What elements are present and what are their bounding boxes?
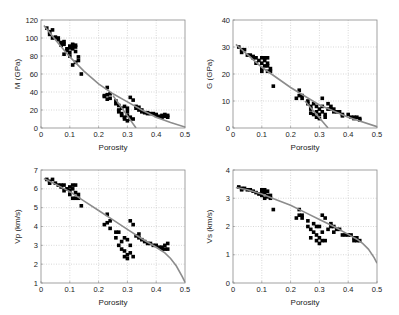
y-tick-label: 7: [34, 166, 38, 175]
data-point: [266, 189, 270, 193]
data-point: [320, 230, 324, 234]
data-point: [51, 178, 55, 182]
subplot-vp: 00.10.20.30.40.51234567PorosityVp (km/s): [13, 166, 190, 307]
figure-canvas: 00.10.20.30.40.5020406080100120PorosityM…: [0, 0, 399, 315]
data-point: [123, 249, 127, 253]
data-point: [80, 72, 84, 76]
axes-frame: [41, 20, 185, 128]
data-point: [131, 255, 135, 259]
y-axis-label: Vs (km/s): [205, 209, 214, 243]
y-tick-label: 4: [226, 166, 230, 175]
y-tick-label: 1: [34, 279, 38, 288]
y-tick-label: 2: [34, 260, 38, 269]
y-axis-label: Vp (km/s): [13, 209, 22, 244]
data-points: [237, 185, 362, 245]
data-point: [318, 225, 322, 229]
y-tick-label: 60: [30, 70, 38, 79]
y-tick-label: 4: [34, 222, 38, 231]
data-points: [45, 178, 170, 261]
y-tick-label: 6: [34, 184, 38, 193]
y-tick-label: 100: [25, 34, 38, 43]
x-tick-label: 0: [231, 130, 235, 139]
data-point: [309, 236, 313, 240]
y-tick-label: 20: [30, 106, 38, 115]
data-point: [166, 242, 170, 246]
x-tick-label: 0.3: [122, 285, 132, 294]
x-tick-label: 0.1: [65, 285, 75, 294]
data-point: [117, 230, 121, 234]
data-point: [300, 97, 304, 101]
y-tick-label: 3: [34, 241, 38, 250]
x-tick-label: 0.1: [65, 130, 75, 139]
data-points: [237, 45, 362, 122]
data-point: [266, 64, 270, 68]
data-point: [266, 56, 270, 60]
data-points: [45, 26, 170, 122]
axes-frame: [233, 20, 377, 128]
x-tick-label: 0.3: [314, 285, 324, 294]
x-tick-label: 0.1: [257, 130, 267, 139]
x-tick-label: 0.1: [257, 285, 267, 294]
y-tick-label: 3: [226, 194, 230, 203]
data-point: [126, 238, 130, 242]
data-point: [120, 240, 124, 244]
data-point: [105, 97, 109, 101]
x-tick-label: 0: [231, 285, 235, 294]
data-point: [131, 223, 135, 227]
data-point: [272, 84, 276, 88]
x-axis-label: Porosity: [291, 298, 320, 307]
data-point: [320, 97, 324, 101]
data-point: [128, 219, 132, 223]
y-tick-label: 120: [25, 16, 38, 25]
data-point: [74, 50, 78, 54]
data-point: [131, 117, 135, 121]
y-tick-label: 5: [34, 203, 38, 212]
x-tick-label: 0.2: [285, 285, 295, 294]
data-point: [126, 106, 130, 110]
y-tick-label: 40: [222, 16, 230, 25]
data-point: [62, 183, 66, 187]
subplot-vs: 00.10.20.30.40.501234PorosityVs (km/s): [205, 166, 382, 307]
y-tick-label: 0: [226, 124, 230, 133]
y-tick-label: 30: [222, 43, 230, 52]
data-point: [117, 244, 121, 248]
x-tick-label: 0.3: [314, 130, 324, 139]
data-point: [166, 114, 170, 118]
x-tick-label: 0.2: [93, 285, 103, 294]
data-point: [51, 28, 55, 32]
data-point: [128, 251, 132, 255]
data-point: [114, 236, 118, 240]
data-point: [74, 45, 78, 49]
curve-trend: [44, 178, 185, 282]
grid: [41, 20, 185, 128]
y-tick-label: 0: [34, 124, 38, 133]
y-tick-label: 2: [226, 222, 230, 231]
grid: [233, 170, 377, 283]
x-axis-label: Porosity: [99, 143, 128, 152]
y-tick-label: 40: [30, 88, 38, 97]
x-tick-label: 0.5: [180, 130, 190, 139]
x-tick-label: 0.4: [151, 285, 161, 294]
x-tick-label: 0.5: [372, 130, 382, 139]
y-tick-label: 0: [226, 279, 230, 288]
data-point: [77, 55, 81, 59]
x-tick-label: 0.4: [343, 285, 353, 294]
data-point: [68, 51, 72, 55]
data-point: [62, 52, 66, 56]
x-axis-label: Porosity: [291, 143, 320, 152]
x-tick-label: 0.2: [285, 130, 295, 139]
x-tick-label: 0: [39, 130, 43, 139]
axes-frame: [233, 170, 377, 283]
data-point: [131, 98, 135, 102]
data-point: [323, 113, 327, 117]
data-point: [71, 63, 75, 67]
x-axis-label: Porosity: [99, 298, 128, 307]
x-tick-label: 0.5: [180, 285, 190, 294]
data-point: [108, 227, 112, 231]
data-point: [74, 183, 78, 187]
x-tick-label: 0.4: [151, 130, 161, 139]
model-curves: [44, 178, 185, 282]
y-tick-label: 1: [226, 250, 230, 259]
data-point: [323, 216, 327, 220]
grid: [233, 20, 377, 128]
